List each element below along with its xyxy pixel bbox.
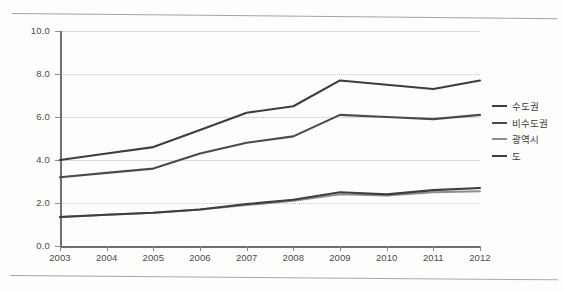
series-line-수도권: [60, 80, 480, 160]
legend-swatch-line-icon: [492, 122, 507, 124]
y-tick-label: 6.0: [0, 111, 50, 122]
x-tick-label: 2008: [273, 252, 313, 263]
x-tick-label: 2009: [320, 252, 360, 263]
legend-item-광역시[interactable]: 광역시: [492, 131, 560, 148]
x-tick-label: 2004: [87, 252, 127, 263]
chart-figure: 0.02.04.06.08.010.0 20032004200520062007…: [0, 0, 563, 292]
legend-swatch-line-icon: [492, 105, 507, 107]
legend-item-label: 광역시: [512, 132, 539, 146]
x-tick-label: 2012: [460, 252, 500, 263]
y-tick-label: 10.0: [0, 25, 50, 36]
series-line-도: [60, 188, 480, 217]
legend-item-label: 수도권: [512, 99, 539, 113]
chart-legend: 수도권비수도권광역시도: [492, 98, 560, 164]
x-tick-label: 2011: [413, 252, 453, 263]
legend-swatch-line-icon: [492, 155, 507, 157]
plot-lines: [60, 31, 480, 247]
y-tick-label: 2.0: [0, 197, 50, 208]
x-tick-label: 2003: [40, 252, 80, 263]
x-tick-label: 2010: [367, 252, 407, 263]
legend-item-도[interactable]: 도: [492, 148, 560, 165]
x-tick-label: 2007: [227, 252, 267, 263]
top-border-rule: [12, 13, 557, 19]
y-axis-labels: 0.02.04.06.08.010.0: [0, 0, 56, 292]
y-tick-label: 4.0: [0, 154, 50, 165]
x-tick-label: 2006: [180, 252, 220, 263]
legend-item-label: 비수도권: [512, 116, 548, 130]
x-tick-2012: [480, 246, 481, 251]
bottom-border-rule: [10, 275, 558, 280]
legend-swatch-line-icon: [492, 138, 507, 140]
y-tick-label: 8.0: [0, 68, 50, 79]
x-tick-label: 2005: [133, 252, 173, 263]
y-tick-label: 0.0: [0, 240, 50, 251]
legend-item-수도권[interactable]: 수도권: [492, 98, 560, 115]
series-line-비수도권: [60, 115, 480, 177]
legend-item-label: 도: [512, 149, 521, 163]
legend-item-비수도권[interactable]: 비수도권: [492, 115, 560, 132]
